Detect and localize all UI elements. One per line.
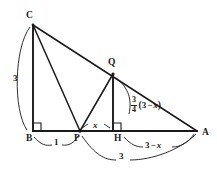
qh-inner-operator: − (147, 100, 152, 110)
vertex-dot-Q (111, 72, 114, 75)
fraction-three-fourths: 3 4 (131, 96, 137, 114)
geometry-diagram: C B P H A Q 3 1 x 3 − x 3 3 4 ( 3 − x ) (0, 0, 217, 172)
brace-bp-left (34, 137, 52, 145)
ha-value-a: 3 (145, 140, 150, 150)
measure-label-ph: x (93, 121, 98, 130)
vertex-label-H: H (114, 134, 122, 144)
brace-pa-left (82, 136, 116, 160)
vertex-label-B: B (26, 134, 33, 144)
measure-label-ha: 3 − x (145, 140, 161, 150)
vertex-label-Q: Q (108, 58, 116, 68)
measure-label-qh: 3 4 ( 3 − x ) (131, 96, 161, 114)
arrow-ph-right (104, 124, 110, 128)
paren-close: ) (158, 100, 161, 110)
fraction-numerator: 3 (131, 96, 137, 105)
ha-value-b: x (157, 140, 162, 150)
vertex-label-A: A (202, 128, 209, 138)
measure-label-bp: 1 (54, 138, 59, 147)
brace-ha-right (172, 134, 194, 147)
measure-label-pa: 3 (119, 152, 124, 161)
brace-ha-left (124, 137, 143, 147)
right-angle-B (33, 123, 41, 131)
figure-canvas (0, 0, 217, 172)
segment-CA (33, 25, 197, 131)
vertex-dot-C (32, 24, 35, 27)
fraction-denominator: 4 (131, 106, 137, 115)
vertex-label-P: P (74, 134, 80, 144)
vertex-label-C: C (26, 11, 33, 21)
right-angle-H (113, 123, 121, 131)
ha-operator: − (151, 140, 156, 150)
measure-label-cb: 3 (13, 74, 18, 83)
brace-cb (17, 27, 30, 130)
qh-inner-a: 3 (142, 100, 147, 110)
